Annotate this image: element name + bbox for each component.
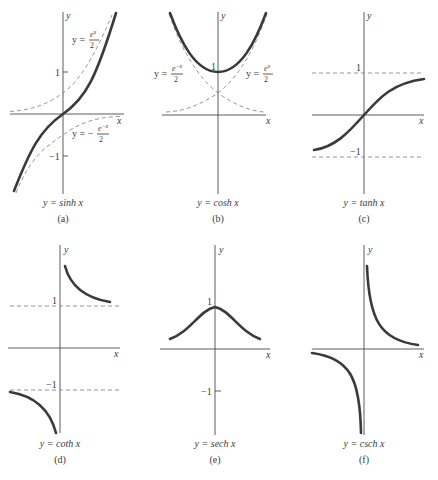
curve-emx-over-2 xyxy=(169,14,264,112)
y-axis-label: y xyxy=(63,244,69,255)
caption-title: y = csch x xyxy=(343,438,385,449)
svg-text:e−x: e−x xyxy=(172,63,183,73)
caption-title: y = tanh x xyxy=(343,197,385,208)
y-axis-label: y xyxy=(220,10,226,21)
tick-label-neg-1: −1 xyxy=(350,146,361,157)
caption-title: y = sech x xyxy=(194,438,236,449)
x-axis-label: x xyxy=(265,349,271,360)
y-axis-label: y xyxy=(366,10,372,21)
x-axis-label: x xyxy=(418,349,424,360)
caption-tag: (a) xyxy=(57,213,68,225)
x-axis-label: x xyxy=(418,115,424,126)
curve-csch-negative xyxy=(312,353,361,433)
annot-ex-numer: ex xyxy=(90,29,97,39)
tick-label-1: 1 xyxy=(207,296,212,307)
caption-tag: (b) xyxy=(212,213,224,225)
svg-text:ex: ex xyxy=(264,63,271,73)
caption-tag: (f) xyxy=(359,454,369,466)
annot-emx-lhs: y = xyxy=(154,68,168,79)
x-axis-label: x xyxy=(113,348,119,359)
annot-ex-over-2-lhs: y = xyxy=(72,34,86,45)
hyperbolic-functions-figure: y x 1 −1 y = ex 2 y = − e−x 2 y = sinh x… xyxy=(0,0,438,480)
curve-coth-positive xyxy=(65,266,110,302)
caption-title: y = coth x xyxy=(39,438,81,449)
svg-text:2: 2 xyxy=(99,135,103,144)
panel-d-coth: y x 1 −1 y = coth x (d) xyxy=(8,244,120,466)
tick-label-neg-1: −1 xyxy=(49,151,60,162)
annot-ex-lhs: y = xyxy=(246,68,260,79)
tick-label-1: 1 xyxy=(356,62,361,73)
panel-a-sinh: y x 1 −1 y = ex 2 y = − e−x 2 y = sinh x… xyxy=(10,10,124,225)
curve-ex-over-2 xyxy=(10,15,112,112)
y-axis-label: y xyxy=(65,10,71,21)
x-axis-label: x xyxy=(265,115,271,126)
svg-text:2: 2 xyxy=(90,41,94,50)
curve-csch-positive xyxy=(367,266,418,345)
annot-emx-numer: e−x xyxy=(98,123,109,133)
annot-neg-emx-over-2-lhs: y = − xyxy=(72,128,94,139)
panel-c-tanh: y x 1 −1 y = tanh x (c) xyxy=(312,10,424,225)
panel-b-cosh: y x 1 y = e−x 2 y = ex 2 y = cosh x (b) xyxy=(154,10,273,225)
caption-tag: (d) xyxy=(54,454,66,466)
tick-label-neg-1: −1 xyxy=(46,379,57,390)
caption-tag: (e) xyxy=(209,454,220,466)
y-axis-label: y xyxy=(367,244,373,255)
caption-title: y = cosh x xyxy=(196,197,239,208)
caption-tag: (c) xyxy=(358,213,369,225)
tick-label-1: 1 xyxy=(52,295,57,306)
svg-text:2: 2 xyxy=(264,75,268,84)
panel-f-csch: y x y = csch x (f) xyxy=(312,244,424,466)
panel-e-sech: y x 1 −1 y = sech x (e) xyxy=(160,244,271,466)
caption-title: y = sinh x xyxy=(42,197,83,208)
y-axis-label: y xyxy=(218,244,224,255)
curve-coth-negative xyxy=(10,392,56,433)
tick-label-1: 1 xyxy=(55,67,60,78)
tick-label-neg-1: −1 xyxy=(201,386,212,397)
curve-tanh xyxy=(314,79,424,150)
svg-text:2: 2 xyxy=(174,75,178,84)
